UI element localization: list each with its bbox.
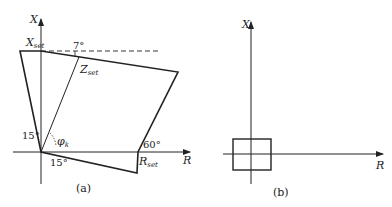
axis-r-label-a: R xyxy=(182,154,191,167)
impedance-characteristics-figure: X R Xset Zset Rset 7° 15° 15° 60° φk (a)… xyxy=(0,0,392,207)
diagram-a: X R Xset Zset Rset 7° 15° 15° 60° φk (a) xyxy=(13,13,191,195)
z-set-label: Zset xyxy=(79,63,98,77)
angle-7-label: 7° xyxy=(73,40,84,51)
quadrilateral-characteristic xyxy=(20,51,178,173)
caption-a: (a) xyxy=(76,182,91,195)
caption-b: (b) xyxy=(273,186,289,199)
axis-r-label-b: R xyxy=(375,159,384,172)
x-set-label: Xset xyxy=(25,36,45,50)
angle-15-left-label: 15° xyxy=(22,130,40,141)
angle-15-bottom-label: 15° xyxy=(50,157,68,168)
axis-x-label-a: X xyxy=(29,13,39,26)
angle-60-label: 60° xyxy=(143,139,161,150)
diagram-b: X R (b) xyxy=(223,18,384,199)
axis-x-label-b: X xyxy=(241,18,251,31)
phi-k-label: φk xyxy=(57,135,69,149)
r-set-label: Rset xyxy=(138,155,158,169)
phi-arc xyxy=(50,133,56,146)
